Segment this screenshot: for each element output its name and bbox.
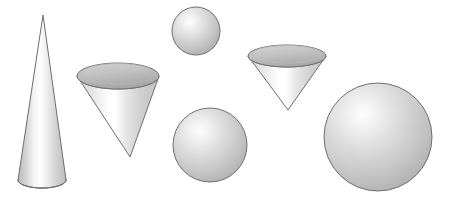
geometric-solids-figure: Geometric solids: cones and spheres	[0, 0, 449, 202]
cone-inverted-large-top-face	[77, 63, 159, 89]
shape-sphere-large	[324, 83, 432, 191]
shape-sphere-medium	[173, 108, 247, 182]
shape-sphere-small	[172, 7, 220, 55]
sphere-medium-body	[173, 108, 247, 182]
sphere-large-body	[324, 83, 432, 191]
solids-canvas	[0, 0, 449, 202]
sphere-small-body	[172, 7, 220, 55]
